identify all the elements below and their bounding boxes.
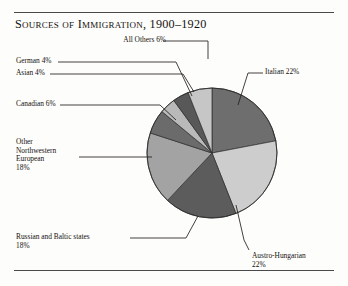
leader-line-german bbox=[58, 62, 192, 96]
immigration-pie-figure: Sources of Immigration, 1900–1920 Italia… bbox=[0, 0, 348, 286]
callout-other-nw-european: Other Northwestern European 18% bbox=[16, 138, 56, 172]
callout-all-others: All Others 6% bbox=[16, 36, 166, 45]
leader-line-russian-baltic bbox=[130, 216, 198, 238]
callout-austro-hungarian: Austro-Hungarian 22% bbox=[252, 252, 306, 269]
callout-canadian: Canadian 6% bbox=[16, 100, 56, 109]
leader-line-asian bbox=[50, 74, 194, 92]
callout-italian: Italian 22% bbox=[265, 68, 299, 77]
pie-slice-group: Italian 22%Austro-Hungarian 22%Russian a… bbox=[147, 88, 277, 218]
callout-german: German 4% bbox=[16, 57, 52, 66]
leader-line-austro-hungarian bbox=[236, 205, 249, 250]
leader-line-all-others bbox=[163, 41, 208, 59]
callout-russian-baltic: Russian and Baltic states 18% bbox=[16, 233, 90, 250]
callout-asian: Asian 4% bbox=[16, 69, 45, 78]
